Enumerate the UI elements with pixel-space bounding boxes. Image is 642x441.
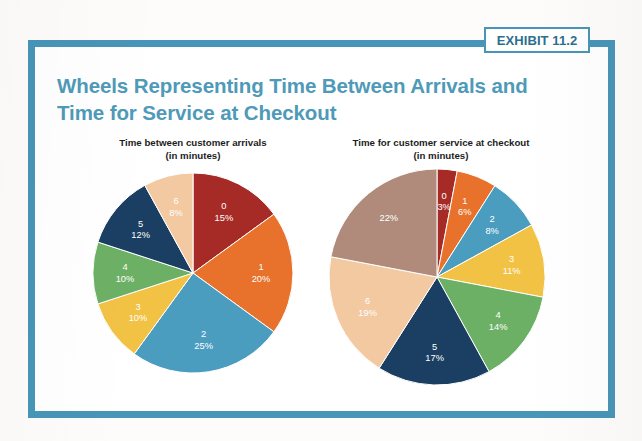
exhibit-badge-label: EXHIBIT 11.2 <box>497 33 578 48</box>
page-title-line2: Time for Service at Checkout <box>57 101 336 124</box>
pie-chart-service: 03%16%28%311%414%517%619%22% <box>328 168 546 386</box>
chart-time-between-arrivals: Time between customer arrivals (in minut… <box>82 136 304 388</box>
pie-arrivals-svg <box>92 172 294 374</box>
exhibit-badge: EXHIBIT 11.2 <box>484 27 590 53</box>
chart-arrivals-units-line: (in minutes) <box>82 149 304 162</box>
chart-arrivals-title-line: Time between customer arrivals <box>119 137 266 148</box>
chart-service-subtitle: Time for customer service at checkout (i… <box>322 136 560 162</box>
page-title-line1: Wheels Representing Time Between Arrival… <box>57 74 528 97</box>
chart-service-units-line: (in minutes) <box>322 149 560 162</box>
pie-chart-arrivals: 015%120%225%310%410%512%68% <box>92 172 294 374</box>
page-root: EXHIBIT 11.2 Wheels Representing Time Be… <box>0 0 642 441</box>
page-title: Wheels Representing Time Between Arrival… <box>57 72 557 126</box>
pie-service-svg <box>328 168 546 386</box>
chart-arrivals-subtitle: Time between customer arrivals (in minut… <box>82 136 304 162</box>
chart-time-for-service: Time for customer service at checkout (i… <box>322 136 560 396</box>
chart-service-title-line: Time for customer service at checkout <box>353 137 530 148</box>
